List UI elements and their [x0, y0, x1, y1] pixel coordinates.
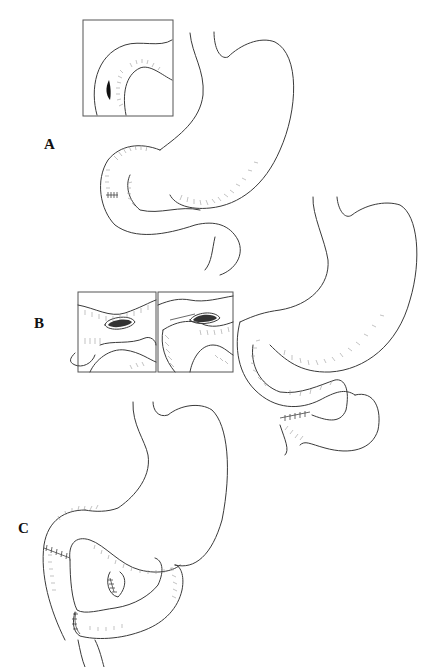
inset-a-inner-wall: [124, 67, 172, 115]
inset-b-left-suture-line: [100, 337, 156, 345]
stomach-c-greater-curve: [153, 402, 227, 566]
inset-b-right-wall: [158, 296, 233, 305]
loop-c-limb: [70, 558, 162, 612]
inset-a-defect: [106, 80, 110, 100]
suture-a: [106, 192, 118, 198]
stomach-c-lesser-curve: [85, 402, 148, 511]
inset-b-left-wall: [78, 300, 156, 314]
hatching-c: [48, 505, 177, 631]
inset-a-outer-wall: [94, 40, 172, 115]
inset-b-left-fold: [90, 350, 156, 372]
inset-b-left-frame: [78, 292, 156, 372]
panel-label-a: A: [44, 136, 55, 153]
panel-label-c: C: [18, 520, 29, 537]
hatching-b: [251, 315, 384, 440]
inset-b-left-lumen: [108, 319, 132, 327]
hatching-a: [105, 145, 258, 206]
loop-c-exit: [78, 640, 104, 667]
panel-label-b: B: [34, 315, 44, 332]
loop-b-limb-2: [280, 425, 287, 455]
loop-a-inner: [128, 175, 200, 211]
loop-b-inner: [252, 345, 347, 420]
inset-b-right-suture-line: [163, 321, 233, 330]
stomach-b-greater-curve: [270, 197, 417, 372]
suture-b: [280, 411, 310, 421]
panel-a-drawing: [83, 20, 294, 275]
stomach-a-greater-curve: [170, 32, 294, 208]
stomach-b-lesser-curve: [240, 197, 328, 322]
loop-c-outer: [43, 510, 85, 640]
suture-c-upper: [44, 545, 70, 559]
loop-b-outer: [237, 322, 355, 407]
loop-c-inner: [70, 539, 180, 572]
stomach-a-lesser-curve: [160, 33, 203, 150]
loop-a-limb: [205, 237, 215, 270]
inset-b-right-lumen: [193, 315, 217, 322]
inset-b-left-thread: [70, 353, 95, 366]
panel-c-drawing: [43, 402, 227, 667]
loop-c-stump: [108, 572, 125, 597]
panel-b-drawing: [70, 197, 416, 455]
surgical-illustration: [0, 0, 439, 667]
loop-b-limb: [300, 394, 379, 451]
